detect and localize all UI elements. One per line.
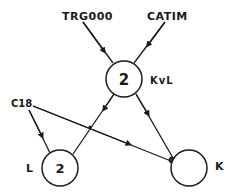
label-c18: C18 (11, 98, 32, 109)
node-k[interactable] (171, 150, 207, 186)
label-kvl: KvL (150, 75, 174, 86)
label-l: L (26, 162, 33, 175)
node-l-value: 2 (55, 161, 64, 176)
label-trg000: TRG000 (62, 10, 113, 23)
label-catim: CATIM (147, 10, 188, 23)
diagram-canvas: TRG000 CATIM 2 KvL C18 2 L K (0, 0, 234, 193)
node-kvl-value: 2 (119, 71, 129, 89)
crossing-dot (89, 126, 92, 129)
label-k: K (215, 160, 224, 173)
